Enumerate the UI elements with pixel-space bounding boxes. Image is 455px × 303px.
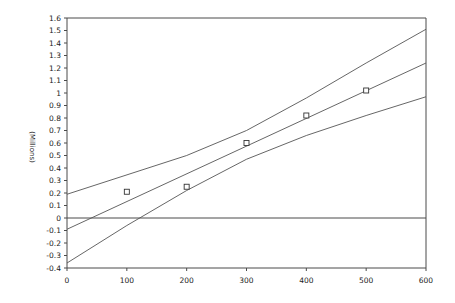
- y-tick-label: 0.4: [49, 164, 61, 173]
- y-tick-label: 0.3: [49, 176, 61, 185]
- x-tick-label: 600: [419, 276, 434, 285]
- y-tick-label: 0: [56, 214, 61, 223]
- y-tick-label: 0.6: [49, 139, 61, 148]
- y-tick-label: -0.1: [46, 226, 61, 235]
- observed-points: [124, 88, 368, 194]
- x-tick-label: 100: [120, 276, 135, 285]
- x-tick-label: 400: [299, 276, 314, 285]
- y-tick-label: -0.2: [46, 239, 61, 248]
- y-tick-label: 1.5: [49, 26, 61, 35]
- data-point-square: [244, 141, 249, 146]
- data-point-square: [184, 184, 189, 189]
- lower-band-line: [67, 97, 426, 263]
- y-tick-label: 1.4: [49, 39, 61, 48]
- data-point-square: [124, 189, 129, 194]
- y-tick-label: 0.7: [49, 126, 61, 135]
- upper-band-line: [67, 29, 426, 194]
- y-tick-label: 1.1: [49, 76, 61, 85]
- confidence-band-chart: -0.4-0.3-0.2-0.100.10.20.30.40.50.60.70.…: [0, 0, 455, 303]
- y-tick-label: 1.2: [49, 64, 61, 73]
- y-tick-label: 1.6: [49, 14, 61, 23]
- x-tick-label: 0: [65, 276, 70, 285]
- y-tick-label: 0.9: [49, 101, 61, 110]
- y-tick-label: 1: [56, 89, 61, 98]
- y-axis-label: (Millions): [28, 131, 36, 163]
- y-tick-label: -0.4: [46, 264, 61, 273]
- fitted-and-band-lines: [67, 29, 426, 263]
- y-tick-label: 0.1: [49, 201, 61, 210]
- y-tick-label: 0.2: [49, 189, 61, 198]
- fitted-line-line: [67, 63, 426, 229]
- x-tick-label: 200: [180, 276, 195, 285]
- data-point-square: [364, 88, 369, 93]
- x-axis-ticks: 0100200300400500600: [65, 268, 434, 285]
- x-tick-label: 300: [239, 276, 254, 285]
- y-tick-label: 0.8: [49, 114, 61, 123]
- y-tick-label: 1.3: [49, 51, 61, 60]
- x-tick-label: 500: [359, 276, 374, 285]
- y-tick-label: 0.5: [49, 151, 61, 160]
- y-axis-ticks: -0.4-0.3-0.2-0.100.10.20.30.40.50.60.70.…: [46, 14, 67, 273]
- y-tick-label: -0.3: [46, 251, 61, 260]
- data-point-square: [304, 113, 309, 118]
